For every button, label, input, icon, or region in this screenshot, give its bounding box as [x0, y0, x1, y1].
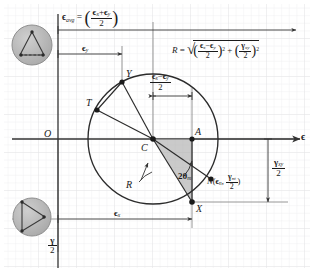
- label-point-A: A: [195, 127, 201, 137]
- label-point-C: C: [141, 143, 148, 153]
- half-diff-numerator: ϵx−ϵy: [150, 72, 171, 83]
- label-eps-x: ϵx: [114, 209, 120, 219]
- paren-close: ): [112, 8, 118, 28]
- radius-plus: +: [227, 45, 232, 55]
- eps-avg-denominator: 2: [91, 19, 113, 28]
- label-gamma-axis: γ 2: [48, 236, 57, 255]
- point-N-coord2-denominator: 2: [226, 183, 238, 191]
- point-dot-Y: [119, 79, 124, 84]
- label-point-X: X: [196, 204, 202, 214]
- term2-denominator: 2: [239, 52, 251, 60]
- label-half-gamma-xy: γxy 2: [272, 158, 285, 178]
- point-N-comma: ,: [222, 176, 224, 186]
- term1-denominator: 2: [198, 52, 218, 60]
- label-point-Y: Y: [126, 69, 132, 79]
- element-shear-badge-top: [12, 25, 52, 65]
- gamma-xy-denominator: 2: [272, 169, 285, 178]
- radius-symbol: R: [172, 45, 178, 55]
- point-dot-C: [150, 136, 156, 142]
- half-diff-denominator: 2: [150, 83, 171, 92]
- label-angle-2theta-m: 2θm: [178, 172, 191, 182]
- label-epsilon-axis: ϵ: [301, 132, 305, 142]
- label-point-T: T: [86, 98, 92, 108]
- formula-radius: R = √ ( ϵx−ϵy 2 )2 + ( γxy 2 )2: [172, 40, 259, 60]
- point-dot-A: [189, 136, 194, 141]
- element-shear-badge-bottom: [13, 198, 51, 236]
- term2-exponent: 2: [256, 46, 259, 52]
- formula-eps-avg: ϵavg = ( ϵx+ϵy 2 ): [62, 8, 118, 28]
- label-eps-y: ϵy: [82, 44, 88, 54]
- point-N-paren-close: ): [238, 176, 241, 186]
- point-dot-X: [189, 199, 195, 205]
- eps-avg-subscript: avg: [66, 17, 74, 23]
- radius-equals: =: [180, 45, 185, 55]
- eps-avg-equals: =: [77, 12, 82, 22]
- gamma-axis-denominator: 2: [48, 246, 57, 255]
- label-point-N: N(ϵn, γnt 2 ): [207, 173, 240, 191]
- label-half-difference: ϵx−ϵy 2: [150, 72, 171, 91]
- point-dot-T: [94, 107, 99, 112]
- label-origin-O: O: [44, 129, 51, 139]
- mohrs-circle-figure: ϵavg = ( ϵx+ϵy 2 ) R = √ ( ϵx−ϵy 2 )2 + …: [0, 0, 314, 272]
- label-radius-R: R: [126, 180, 132, 190]
- term1-exponent: 2: [222, 46, 225, 52]
